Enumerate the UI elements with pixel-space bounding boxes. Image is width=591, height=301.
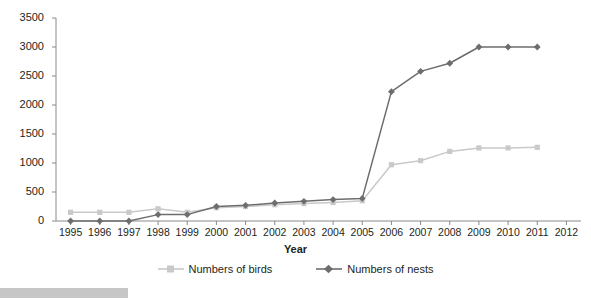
bottom-gray-bar <box>0 288 128 298</box>
x-axis-title: Year <box>0 243 591 255</box>
data-point-marker <box>476 145 481 150</box>
data-point-marker <box>126 210 131 215</box>
data-point-marker <box>534 44 541 51</box>
data-point-marker <box>126 218 133 225</box>
data-point-marker <box>389 162 394 167</box>
legend-marker-diamond-icon <box>316 264 342 274</box>
legend-label-nests: Numbers of nests <box>347 263 433 275</box>
data-point-marker <box>155 206 160 211</box>
data-point-marker <box>67 218 74 225</box>
data-point-marker <box>97 210 102 215</box>
legend-label-birds: Numbers of birds <box>189 263 273 275</box>
data-point-marker <box>476 44 483 51</box>
data-point-marker <box>446 60 453 67</box>
legend-item-birds: Numbers of birds <box>158 263 273 275</box>
chart-container: 0500100015002000250030003500 19951996199… <box>0 0 591 301</box>
data-point-marker <box>505 44 512 51</box>
data-point-marker <box>535 145 540 150</box>
data-point-marker <box>68 210 73 215</box>
data-point-marker <box>447 149 452 154</box>
data-point-marker <box>155 211 162 218</box>
series-line-numbers-of-nests <box>71 47 538 221</box>
data-point-marker <box>96 218 103 225</box>
chart-legend: Numbers of birds Numbers of nests <box>0 263 591 275</box>
legend-item-nests: Numbers of nests <box>316 263 433 275</box>
data-point-marker <box>505 145 510 150</box>
data-point-marker <box>418 158 423 163</box>
legend-marker-square-icon <box>158 264 184 274</box>
plot-area <box>0 0 591 301</box>
